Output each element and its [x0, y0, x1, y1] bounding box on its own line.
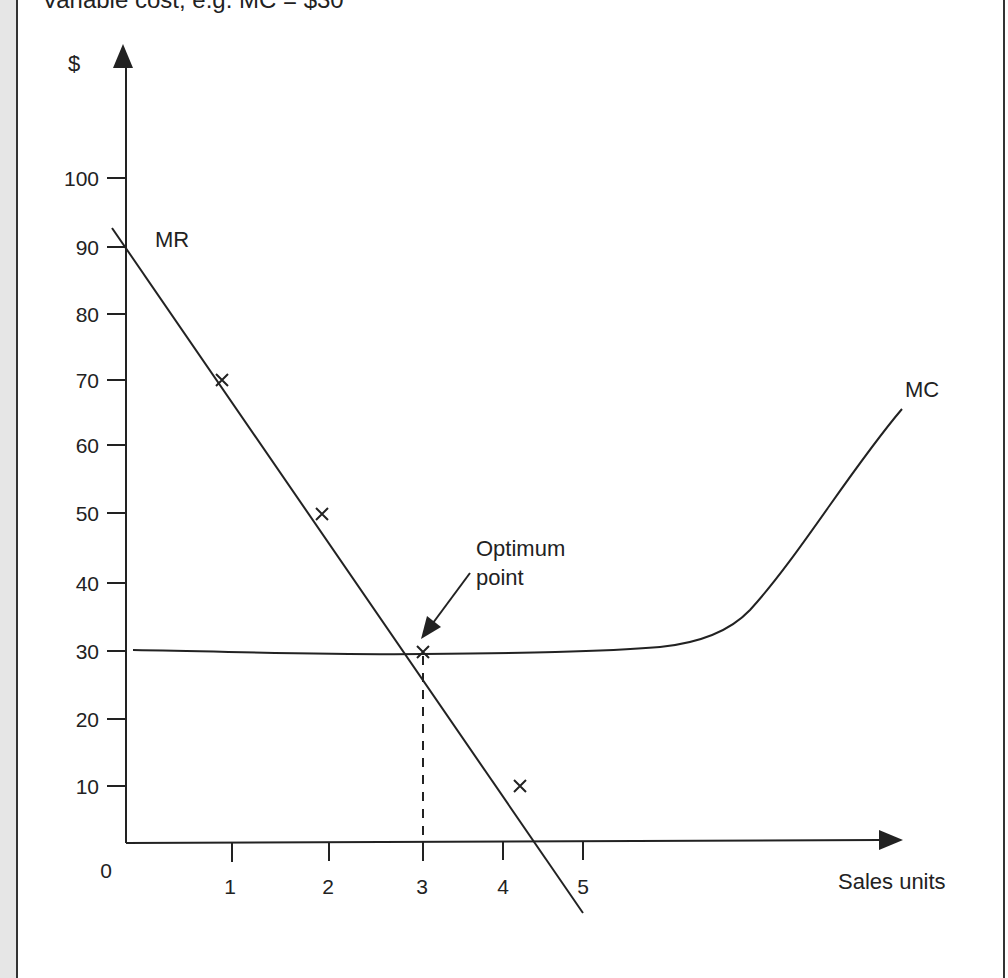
y-tick-label: 20	[76, 708, 99, 731]
x-tick-label: 3	[416, 875, 428, 898]
y-tick-label: 30	[76, 640, 99, 663]
x-tick-label: 2	[322, 875, 334, 898]
optimum-label-line1: Optimum	[476, 536, 565, 561]
y-tick-label: 60	[76, 434, 99, 457]
y-axis-arrow-icon	[113, 44, 133, 68]
mc-label: MC	[905, 377, 939, 402]
x-axis-arrow-icon	[879, 830, 903, 850]
x-marker-icon	[316, 508, 328, 520]
y-tick-label: 90	[76, 236, 99, 259]
x-axis: 1 2 3 4 5 0 Sales units	[100, 830, 945, 898]
y-tick-label: 40	[76, 572, 99, 595]
x-marker-icon	[514, 780, 526, 792]
x-tick-labels: 1 2 3 4 5	[224, 875, 589, 898]
x-tick-label: 5	[577, 875, 589, 898]
y-axis-label: $	[68, 51, 80, 76]
y-tick-label: 50	[76, 502, 99, 525]
x-marker-icon	[216, 374, 228, 386]
mc-series: MC	[133, 377, 939, 654]
optimum-annotation: Optimum point	[421, 536, 565, 639]
y-tick-label: 10	[76, 775, 99, 798]
x-ticks	[232, 841, 583, 862]
y-tick-label: 80	[76, 303, 99, 326]
optimum-arrow-icon	[421, 616, 441, 639]
x-axis-title: Sales units	[838, 869, 946, 894]
y-axis: $ 100 90 80 70 60 50 40 30 20 10	[64, 44, 133, 843]
mr-mc-chart: $ 100 90 80 70 60 50 40 30 20 10	[0, 0, 1008, 978]
x-tick-label: 1	[224, 875, 236, 898]
optimum-label-line2: point	[476, 565, 524, 590]
y-tick-label: 70	[76, 369, 99, 392]
origin-label: 0	[100, 859, 112, 882]
mr-label: MR	[155, 227, 189, 252]
y-ticks	[107, 178, 126, 786]
y-tick-label: 100	[64, 167, 99, 190]
x-tick-label: 4	[497, 875, 509, 898]
y-tick-labels: 100 90 80 70 60 50 40 30 20 10	[64, 167, 99, 798]
